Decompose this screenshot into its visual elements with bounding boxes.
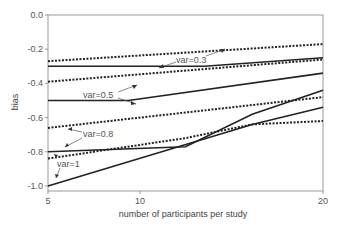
annotation-var-0-5: var=0.5 [83, 90, 113, 100]
series-line-5 [48, 97, 323, 128]
y-tick-label: -0.2 [27, 44, 43, 54]
x-tick-label: 10 [135, 196, 145, 206]
series-layer [48, 44, 323, 186]
y-tick-label: -0.4 [27, 78, 43, 88]
y-tick-label: -0.6 [27, 113, 43, 123]
x-axis-label: number of participants per study [119, 209, 248, 219]
bias-line-chart: 0.0 -0.2 -0.4 -0.6 -0.8 -1.0 5 10 20 num… [0, 0, 346, 230]
annotation-var-0-3: var=0.3 [176, 55, 206, 65]
y-tick-label: 0.0 [30, 10, 43, 20]
y-axis-label: bias [10, 93, 20, 110]
x-tick-label: 5 [45, 196, 50, 206]
y-tick-labels: 0.0 -0.2 -0.4 -0.6 -0.8 -1.0 [27, 10, 43, 191]
series-line-7 [48, 121, 323, 159]
x-tick-labels: 5 10 20 [45, 196, 328, 206]
annotation-var-0-8: var=0.8 [83, 129, 113, 139]
annotation-var-1: var=1 [57, 159, 80, 169]
y-tick-label: -0.8 [27, 147, 43, 157]
plot-frame [48, 15, 323, 191]
y-tick-label: -1.0 [27, 181, 43, 191]
x-tick-label: 20 [318, 196, 328, 206]
